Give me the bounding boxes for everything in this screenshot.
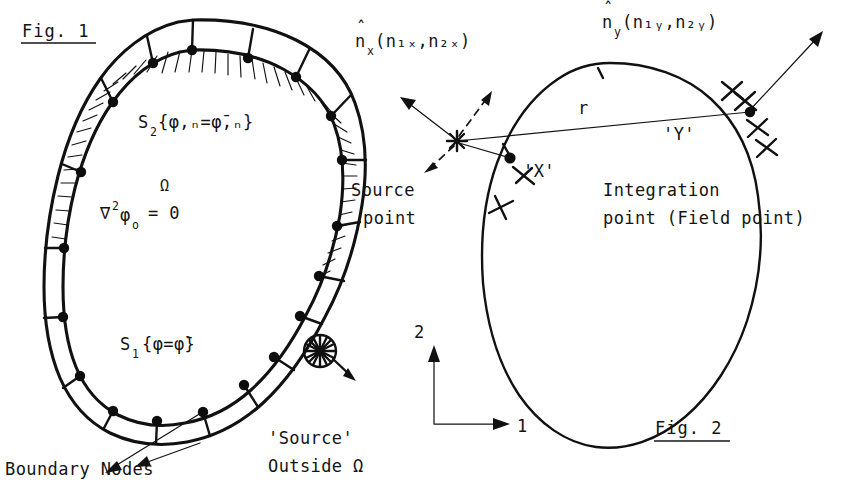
fig2-ny-base: n <box>602 12 613 32</box>
fig1-node <box>326 111 336 121</box>
fig1-node <box>152 416 162 426</box>
fig2-axis2-arrowhead <box>428 345 440 362</box>
technical-figure-canvas: Fig. 1 S 2 {φ,ₙ=φ̄,ₙ} Ω ∇ 2 φ o = 0 S 1 … <box>0 0 857 484</box>
fig1-source-outside-label-line2: Outside Ω <box>268 456 364 476</box>
fig1-source-outside-label-line1: 'Source' <box>268 428 353 448</box>
fig2-nx-subscript: x <box>367 44 374 58</box>
fig1-dirichlet-subscript: 1 <box>132 347 139 361</box>
fig2-nx-dashed-arrow <box>459 98 487 136</box>
fig1-node <box>59 243 69 253</box>
fig1-domain-symbol: Ω <box>160 177 169 195</box>
fig2-axis1-arrowhead <box>493 418 510 430</box>
fig1-laplace-equals-zero: = 0 <box>148 203 180 223</box>
fig1-neumann-symbol: S <box>138 112 149 132</box>
fig1-node <box>295 311 305 321</box>
fig2-ny-arrow <box>750 38 817 110</box>
fig1-laplace-operator: ∇ <box>99 203 111 223</box>
fig2-nx-arrow <box>407 102 455 139</box>
fig1-laplace-power: 2 <box>112 199 119 213</box>
fig1-outer-contour <box>44 20 365 444</box>
fig1-boundary-nodes-label: Boundary Nodes <box>5 459 154 479</box>
fig2-source-point-marker-label: 'X' <box>523 161 555 181</box>
fig1-node <box>291 72 301 82</box>
fig2-integration-point-label-line2: point (Field point) <box>603 208 805 228</box>
figure-page: Fig. 1 S 2 {φ,ₙ=φ̄,ₙ} Ω ∇ 2 φ o = 0 S 1 … <box>0 0 857 484</box>
fig1-node <box>198 407 208 417</box>
fig2-nx-base: n <box>355 31 366 51</box>
fig1-node <box>243 53 253 63</box>
figure2-group <box>400 31 823 448</box>
fig1-neumann-label: S 2 {φ,ₙ=φ̄,ₙ} <box>138 112 254 139</box>
fig1-source-starburst <box>305 336 335 366</box>
fig1-node <box>108 97 118 107</box>
fig1-node <box>108 406 118 416</box>
fig1-dirichlet-condition: {φ=φ̄} <box>142 334 195 354</box>
fig2-integration-point-label-line1: Integration <box>603 180 720 200</box>
fig2-axis2-label: 2 <box>414 322 425 342</box>
fig2-distance-label: r <box>578 98 589 118</box>
fig2-axis1-label: 1 <box>517 416 528 436</box>
fig1-dirichlet-symbol: S <box>120 334 131 354</box>
fig1-element-separators <box>44 20 366 444</box>
fig2-field-point-marker-label: 'Y' <box>663 124 695 144</box>
fig2-source-point-label-line2: point <box>363 208 416 228</box>
fig1-laplace-field-subscript: o <box>132 218 139 232</box>
fig2-normal-x-label: n ̂ x (n₁ₓ,n₂ₓ) <box>355 18 471 58</box>
fig2-source-small-arrowhead <box>424 162 438 173</box>
fig1-inner-contour <box>63 50 343 425</box>
fig1-dirichlet-label: S 1 {φ=φ̄} <box>120 334 195 361</box>
fig1-node <box>239 380 249 390</box>
fig2-caption: Fig. 2 <box>655 418 722 438</box>
fig2-r-line <box>457 112 750 141</box>
fig1-caption: Fig. 1 <box>22 21 89 41</box>
fig1-boundary-nodes <box>58 45 347 426</box>
fig1-node <box>269 352 279 362</box>
fig2-coordinate-axes <box>428 345 510 430</box>
fig1-neumann-subscript: 2 <box>150 125 157 139</box>
fig2-source-point-label-line1: Source <box>351 180 415 200</box>
figure1-group <box>44 20 366 473</box>
fig2-nx-arrowhead <box>400 97 416 110</box>
fig2-nx-components: (n₁ₓ,n₂ₓ) <box>375 31 471 51</box>
fig1-node <box>76 167 86 177</box>
fig2-ny-subscript: y <box>614 25 621 39</box>
fig1-source-marker <box>304 335 356 381</box>
fig2-normal-y-label: n ̂ y (n₁ᵧ,n₂ᵧ) <box>602 0 718 39</box>
fig1-neumann-condition: {φ,ₙ=φ̄,ₙ} <box>158 112 254 132</box>
fig1-node <box>58 312 68 322</box>
fig1-governing-equation: ∇ 2 φ o = 0 <box>99 199 180 232</box>
fig1-node <box>75 371 85 381</box>
fig1-laplace-field: φ <box>120 205 131 225</box>
fig2-contour <box>482 63 761 448</box>
fig2-ny-components: (n₁ᵧ,n₂ᵧ) <box>622 12 718 32</box>
